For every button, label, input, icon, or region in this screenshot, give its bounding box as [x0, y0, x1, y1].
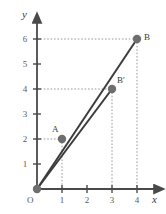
y-axis-label: y — [22, 9, 27, 20]
ray-origin-to-b — [37, 39, 137, 189]
point-label-a: A — [52, 125, 59, 134]
point-origin — [33, 185, 41, 193]
guide-lines-vertical — [62, 39, 137, 189]
y-tick-label-2: 2 — [20, 135, 30, 144]
point-b-prime — [108, 85, 116, 93]
y-tick-label-4: 4 — [20, 85, 30, 94]
x-tick-label-2: 2 — [81, 196, 93, 205]
x-tick-label-1: 1 — [56, 196, 68, 205]
y-tick-label-3: 3 — [20, 110, 30, 119]
point-label-b: B — [144, 33, 150, 42]
point-a — [58, 135, 66, 143]
x-tick-label-3: 3 — [106, 196, 118, 205]
x-axis-label: x — [152, 194, 157, 205]
origin-label: O — [27, 196, 34, 205]
plot-canvas — [0, 0, 166, 214]
point-label-b-prime: B' — [117, 76, 125, 85]
coordinate-plane-figure: y x O 1 2 3 4 1 2 3 4 5 6 A B' B — [0, 0, 166, 214]
y-tick-label-5: 5 — [20, 60, 30, 69]
y-tick-label-6: 6 — [20, 35, 30, 44]
x-tick-label-4: 4 — [131, 196, 143, 205]
point-b — [133, 35, 141, 43]
y-tick-label-1: 1 — [20, 160, 30, 169]
